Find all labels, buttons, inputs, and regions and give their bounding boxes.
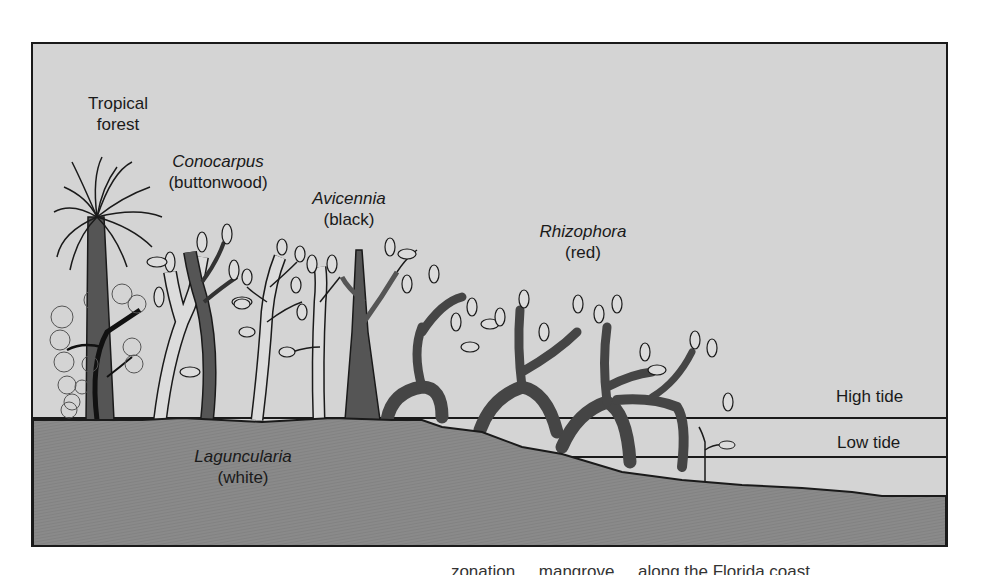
high-tide-label: High tide [836,387,903,407]
label-laguncularia: Laguncularia (white) [183,446,303,488]
common-name: (white) [183,467,303,488]
genus-name: Conocarpus [158,151,278,172]
genus-name: Laguncularia [183,446,303,467]
label-conocarpus: Conocarpus (buttonwood) [158,151,278,193]
common-name: (red) [528,242,638,263]
label-line: forest [73,114,163,135]
label-rhizophora: Rhizophora (red) [528,221,638,263]
label-tropical-forest: Tropical forest [73,93,163,135]
rhizophora-leaves [429,265,733,411]
genus-name: Rhizophora [528,221,638,242]
palm-tree-icon [50,157,162,420]
laguncularia-tree-icon [234,239,340,420]
figure-caption-partial: ... zonation ... mangrove ... along the … [0,562,982,575]
mangrove-scene [33,44,946,545]
low-tide-label: Low tide [837,433,900,453]
diagram-frame: Tropical forest Conocarpus (buttonwood) … [31,42,948,547]
label-line: Tropical [73,93,163,114]
common-name: (black) [299,209,399,230]
label-avicennia: Avicennia (black) [299,188,399,230]
conocarpus-tree-icon [147,224,252,420]
ground [33,418,946,545]
seedling-icon [699,427,735,484]
common-name: (buttonwood) [158,172,278,193]
genus-name: Avicennia [299,188,399,209]
